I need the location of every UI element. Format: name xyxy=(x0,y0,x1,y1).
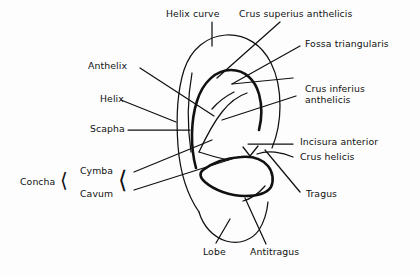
cymba-cavum-bracket: ⟨ xyxy=(118,168,127,192)
leader-crus-superius xyxy=(217,22,280,78)
label-crus-inferius-anthelicis-line2: anthelicis xyxy=(305,95,351,106)
label-lobe: Lobe xyxy=(203,247,226,258)
label-fossa-triangularis: Fossa triangularis xyxy=(305,39,389,50)
label-crus-helicis: Crus helicis xyxy=(300,152,355,163)
label-incisura-anterior: Incisura anterior xyxy=(300,137,378,148)
ear-outline-group xyxy=(121,22,300,244)
label-cymba: Cymba xyxy=(80,166,113,177)
label-helix-curve: Helix curve xyxy=(166,9,219,20)
label-crus-superius-anthelicis: Crus superius anthelicis xyxy=(239,9,352,20)
anthelix-contour xyxy=(199,93,247,152)
crus-superius-stroke xyxy=(212,92,234,109)
label-cavum: Cavum xyxy=(80,189,113,200)
leader-cavum xyxy=(134,158,235,190)
label-helix: Helix xyxy=(100,94,124,105)
leader-antitragus xyxy=(245,198,266,244)
concha-bracket: ⟨ xyxy=(60,170,68,190)
label-scapha: Scapha xyxy=(90,124,125,135)
label-concha: Concha xyxy=(20,177,55,188)
ear-anatomy-diagram: Helix curve Crus superius anthelicis Fos… xyxy=(0,0,420,277)
label-anthelix: Anthelix xyxy=(88,61,127,72)
incisura-anterior-notch xyxy=(243,146,258,156)
leader-crus-helicis xyxy=(257,152,293,157)
leader-cymba xyxy=(134,140,212,172)
label-tragus: Tragus xyxy=(306,189,337,200)
leader-helix xyxy=(121,100,176,122)
lobe-outline xyxy=(199,202,268,242)
label-antitragus: Antitragus xyxy=(250,247,299,258)
label-crus-inferius-anthelicis-line1: Crus inferius xyxy=(305,84,365,95)
